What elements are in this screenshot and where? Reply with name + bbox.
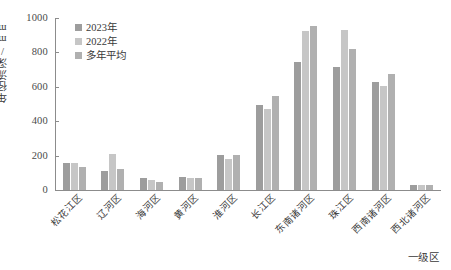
bar[interactable] (426, 185, 433, 190)
x-axis-tick-label: 黄河区 (172, 192, 201, 221)
x-axis-tick-label: 松花江区 (49, 192, 85, 228)
bar-group (248, 18, 287, 190)
y-axis-tick-mark (55, 190, 59, 191)
y-axis-tick-label: 600 (0, 82, 48, 92)
bar[interactable] (372, 82, 379, 190)
y-axis-tick-label: 800 (0, 47, 48, 57)
bar[interactable] (140, 178, 147, 190)
bar-group (94, 18, 133, 190)
bar[interactable] (195, 178, 202, 190)
y-axis-tick-label: 400 (0, 116, 48, 126)
x-axis-tick-labels: 松花江区辽河区海河区黄河区淮河区长江区东南诸河区珠江区西南诸河区西北诸河区 (55, 192, 441, 252)
bar-group (209, 18, 248, 190)
bar[interactable] (71, 163, 78, 190)
bar-group (171, 18, 210, 190)
bar[interactable] (225, 159, 232, 190)
bar[interactable] (294, 62, 301, 190)
bar[interactable] (272, 96, 279, 190)
bar[interactable] (148, 180, 155, 190)
bar[interactable] (349, 49, 356, 190)
bar-group (55, 18, 94, 190)
x-axis-tick-label: 东南诸河区 (273, 192, 316, 235)
x-axis-tick-label: 辽河区 (95, 192, 124, 221)
bar-group (325, 18, 364, 190)
bar[interactable] (217, 155, 224, 190)
bar-group (132, 18, 171, 190)
bar[interactable] (79, 167, 86, 190)
y-axis-tick-label: 1000 (0, 13, 48, 23)
bar[interactable] (109, 154, 116, 190)
bar[interactable] (418, 185, 425, 190)
bar-group (402, 18, 441, 190)
x-axis-tick-label: 长江区 (249, 192, 278, 221)
x-axis-title: 一级区 (408, 252, 440, 263)
bar[interactable] (156, 182, 163, 190)
y-axis-tick-label: 200 (0, 151, 48, 161)
bar[interactable] (333, 67, 340, 190)
x-axis-line (55, 190, 441, 191)
bar[interactable] (410, 185, 417, 190)
bar[interactable] (63, 163, 70, 190)
bar[interactable] (380, 86, 387, 190)
bar[interactable] (101, 171, 108, 190)
x-axis-tick-label: 西北诸河区 (389, 192, 432, 235)
bar[interactable] (117, 169, 124, 190)
bar[interactable] (179, 177, 186, 190)
x-axis-tick-label: 淮河区 (211, 192, 240, 221)
bar[interactable] (310, 26, 317, 190)
runoff-depth-bar-chart: 年径流深/mm 02004006008001000 2023年2022年多年平均… (0, 0, 451, 270)
bar-group (287, 18, 326, 190)
bar[interactable] (256, 105, 263, 190)
x-axis-tick-label: 西南诸河区 (351, 192, 394, 235)
bar[interactable] (302, 31, 309, 190)
bar-groups (55, 18, 441, 190)
bar[interactable] (264, 109, 271, 190)
x-axis-tick-label: 海河区 (134, 192, 163, 221)
x-axis-tick-label: 珠江区 (327, 192, 356, 221)
bar[interactable] (187, 178, 194, 190)
bar[interactable] (341, 30, 348, 190)
y-axis-tick-label: 0 (0, 185, 48, 195)
bar-group (364, 18, 403, 190)
bar[interactable] (233, 155, 240, 190)
bar[interactable] (388, 74, 395, 190)
